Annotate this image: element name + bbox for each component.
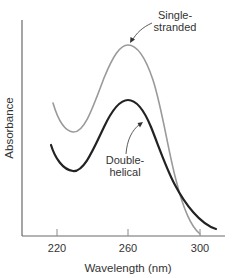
double-helical-arrow [126, 124, 140, 154]
x-tick-label-220: 220 [48, 242, 66, 254]
x-axis-title: Wavelength (nm) [84, 262, 171, 274]
single-stranded-arrowhead [130, 37, 135, 43]
y-axis-title: Absorbance [3, 97, 15, 158]
x-tick-label-260: 260 [119, 242, 137, 254]
single-stranded-arrow [132, 23, 152, 41]
single-stranded-label-line1: Single- [158, 9, 193, 21]
double-helical-label-line2: helical [109, 166, 140, 178]
absorbance-chart: 220 260 300 Wavelength (nm) Absorbance S… [0, 0, 233, 278]
single-stranded-curve [53, 45, 200, 234]
x-tick-label-300: 300 [191, 242, 209, 254]
double-helical-arrowhead [138, 122, 144, 128]
single-stranded-label-line2: stranded [154, 21, 197, 33]
double-helical-label-line1: Double- [106, 154, 145, 166]
